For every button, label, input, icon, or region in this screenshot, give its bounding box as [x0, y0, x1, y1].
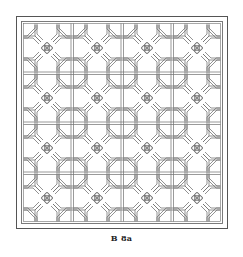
- figure-caption: B 8a: [0, 233, 243, 243]
- lattice-pattern-figure: [0, 0, 243, 257]
